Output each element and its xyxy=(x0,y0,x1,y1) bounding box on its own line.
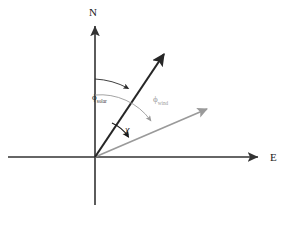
wind-azimuth-label: ϕwind xyxy=(153,94,169,106)
chi-angle: χ xyxy=(112,123,130,137)
solar-azimuth-arc xyxy=(95,79,128,88)
east-axis: E xyxy=(8,151,277,163)
chi-angle-label: χ xyxy=(124,124,130,135)
diagram-canvas: N E ϕsolar ϕwind xyxy=(0,0,286,225)
solar-azimuth-label: ϕsolar xyxy=(92,92,107,104)
azimuth-angle-diagram: N E ϕsolar ϕwind xyxy=(0,0,286,225)
north-axis-label: N xyxy=(89,6,97,18)
solar-azimuth-subscript: solar xyxy=(97,98,107,104)
east-axis-label: E xyxy=(270,151,277,163)
solar-azimuth-angle: ϕsolar xyxy=(92,79,128,104)
north-axis: N xyxy=(89,6,97,205)
wind-azimuth-subscript: wind xyxy=(158,100,169,106)
